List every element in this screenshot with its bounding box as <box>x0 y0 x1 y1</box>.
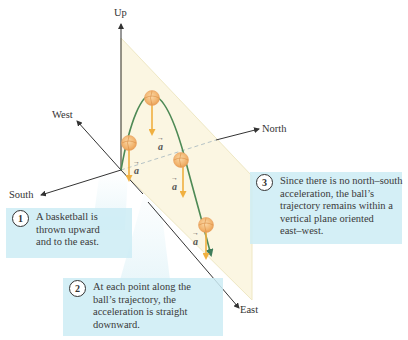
callout-2-line: acceleration is straight <box>93 306 217 319</box>
basketball-4 <box>199 218 214 233</box>
projectile-diagram: Up West North South East a a a a 1 A bas… <box>0 0 408 340</box>
axis-label-up: Up <box>114 8 127 19</box>
north-axis <box>216 129 259 140</box>
callout-3-line: trajectory remains within a <box>280 200 396 213</box>
callout-3: 3 Since there is no north–south accelera… <box>250 172 402 244</box>
callout-2-line: At each point along the <box>93 281 217 294</box>
callout-3-line: vertical plane oriented <box>280 213 396 226</box>
west-axis <box>77 121 121 170</box>
callout-number-2: 2 <box>69 280 86 297</box>
callout-3-line: acceleration, the ball’s <box>280 188 396 201</box>
callout-2-line: downward. <box>93 319 217 332</box>
callout-2: 2 At each point along the ball’s traject… <box>63 278 223 336</box>
axis-label-north: North <box>262 124 287 135</box>
accel-label-2: a <box>158 142 163 152</box>
callout-2-line: ball’s trajectory, the <box>93 294 217 307</box>
callout-1: 1 A basketball is thrown upward and to t… <box>6 208 132 258</box>
callout-1-line: and to the east. <box>36 236 126 249</box>
basketball-1 <box>122 136 137 151</box>
axis-label-south: South <box>9 190 34 201</box>
callout-1-line: thrown upward <box>36 224 126 237</box>
accel-label-1: a <box>134 166 139 176</box>
callout-3-line: east–west. <box>280 225 396 238</box>
basketball-2 <box>145 91 160 106</box>
accel-label-3: a <box>172 182 177 192</box>
callout-number-3: 3 <box>256 174 273 191</box>
axis-label-west: West <box>52 110 73 121</box>
callout-3-line: Since there is no north–south <box>280 175 396 188</box>
basketball-3 <box>174 153 189 168</box>
callout-1-line: A basketball is <box>36 211 126 224</box>
axis-label-east: East <box>240 305 258 316</box>
callout-number-1: 1 <box>12 210 29 227</box>
accel-label-4: a <box>193 237 198 247</box>
